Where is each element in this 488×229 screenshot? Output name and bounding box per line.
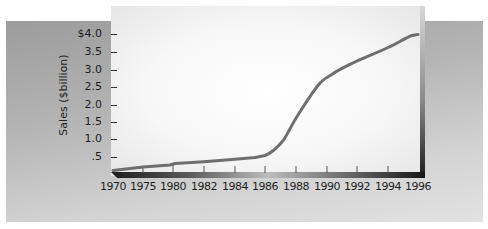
sales-line <box>113 35 418 171</box>
x-tick-label: 1982 <box>187 180 221 193</box>
x-tick-label: 1996 <box>401 180 435 193</box>
x-tick-label: 1970 <box>96 180 130 193</box>
x-tick-label: 1994 <box>371 180 405 193</box>
x-tick-label: 1975 <box>126 180 160 193</box>
x-tick-label: 1992 <box>340 180 374 193</box>
x-tick-label: 1990 <box>310 180 344 193</box>
x-tick-label: 1988 <box>279 180 313 193</box>
x-tick-label: 1984 <box>218 180 252 193</box>
sales-line-plot <box>0 0 488 229</box>
x-tick-label: 1986 <box>248 180 282 193</box>
chart-figure: Sales ($billion) $4.0 3.5 3.0 2.5 2.0 1.… <box>0 0 488 229</box>
x-tick-label: 1980 <box>156 180 190 193</box>
